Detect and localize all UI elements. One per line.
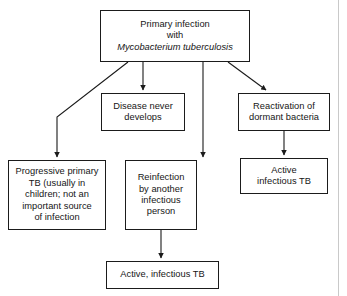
primary-infection-line2: with: [167, 30, 184, 40]
node-primary-infection: Primary infectionwithMycobacterium tuber…: [100, 10, 250, 62]
node-reactivation-label: Reactivation of dormant bacteria: [239, 101, 329, 124]
node-disease-never-develops-label: Disease never develops: [102, 101, 184, 124]
node-active-infectious-tb-bottom-label: Active, infectious TB: [107, 269, 218, 280]
tb-infection-flowchart: Primary infectionwithMycobacterium tuber…: [0, 0, 347, 296]
node-reinfection-by-another-person: Reinfection by another infectious person: [125, 160, 197, 230]
primary-infection-line1: Primary infection: [140, 19, 210, 29]
primary-infection-species-name: Mycobacterium tuberculosis: [117, 42, 233, 52]
node-disease-never-develops: Disease never develops: [101, 93, 185, 131]
node-active-infectious-tb-right: Active infectious TB: [240, 158, 328, 194]
edge-primary-to-reactivation: [228, 62, 266, 90]
node-reinfection-label: Reinfection by another infectious person: [126, 172, 196, 218]
node-active-infectious-tb-right-label: Active infectious TB: [241, 165, 327, 188]
node-primary-infection-label: Primary infectionwithMycobacterium tuber…: [101, 19, 249, 53]
page-edge-rule: [338, 0, 339, 296]
node-reactivation-dormant-bacteria: Reactivation of dormant bacteria: [238, 93, 330, 131]
node-progressive-primary-tb-label: Progressive primary TB (usually in child…: [9, 166, 105, 223]
node-progressive-primary-tb: Progressive primary TB (usually in child…: [8, 160, 106, 230]
node-active-infectious-tb-bottom: Active, infectious TB: [106, 261, 219, 289]
